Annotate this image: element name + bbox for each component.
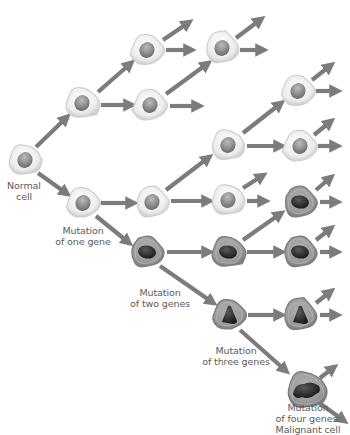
arrow-icon [98,64,130,92]
cell-normal-icon [67,188,101,217]
cell-mutated2-icon [132,236,164,267]
arrow-icon [316,178,330,190]
arrow-icon [243,214,280,240]
cell-mutated2-icon [212,237,246,266]
label-mutation-three-genes: Mutation of three genes [192,345,280,367]
cell-normal-icon [207,31,239,63]
arrow-icon [36,118,66,147]
arrow-icon [243,176,262,188]
arrow-icon [166,158,208,190]
cell-normal-icon [282,75,316,105]
cell-mutated2-icon [285,236,317,267]
cell-normal-icon [9,145,42,174]
arrow-icon [316,292,330,303]
cell-normal-icon [282,130,317,161]
label-mutation-four-genes-malignant: Mutation of four genes: Malignant cell [266,402,350,435]
arrow-icon [243,104,280,133]
arrow-icon [166,64,207,94]
cell-normal-icon [137,186,169,217]
arrow-icon [312,66,330,80]
arrow-icon [314,122,330,135]
arrow-icon [236,20,260,38]
cell-normal-icon [66,88,100,117]
cell-mutated3-icon [213,300,247,329]
label-mutation-two-genes: Mutation of two genes [120,287,200,309]
cell-normal-icon [213,130,245,160]
cell-normal-icon [132,89,167,120]
arrow-icon [163,23,188,40]
cell-normal-icon [131,34,165,64]
cell-mutated2-icon [286,186,318,217]
label-mutation-one-gene: Mutation of one gene [48,225,118,247]
cell-mutated3-icon [285,298,317,330]
label-normal-cell: Normal cell [2,180,46,202]
cancer-progression-diagram [0,0,350,435]
arrow-icon [320,368,333,378]
arrow-icon [316,229,330,240]
cell-normal-icon [212,185,245,215]
